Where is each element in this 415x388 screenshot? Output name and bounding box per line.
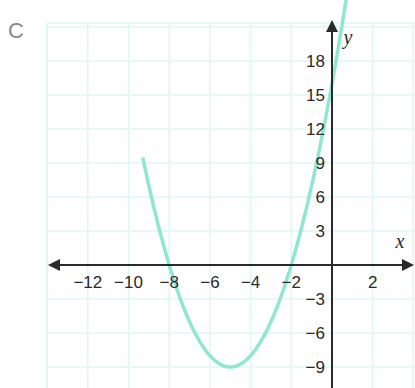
y-tick-label: −6 [306,324,325,343]
x-axis-label: x [395,230,405,252]
x-tick-label: −4 [241,273,260,292]
y-tick-label: 18 [306,52,325,71]
x-axis-arrow-right-icon [402,259,414,271]
y-tick-label: −9 [306,358,325,377]
x-tick-label: −6 [200,273,219,292]
x-tick-label: −10 [114,273,143,292]
y-tick-label: 9 [316,154,325,173]
x-axis-arrow-left-icon [48,259,60,271]
y-axis-arrow-up-icon [326,20,338,32]
x-tick-label: −8 [160,273,179,292]
y-tick-label: 15 [306,86,325,105]
y-tick-label: 3 [316,222,325,241]
x-tick-label: −2 [282,273,301,292]
parabola-chart: −12−10−8−6−4−22181512963−3−6−9xy [0,0,415,388]
x-tick-label: 2 [368,273,377,292]
y-tick-label: −3 [306,290,325,309]
y-axis-label: y [342,26,353,49]
y-tick-label: 12 [306,120,325,139]
x-tick-label: −12 [73,273,102,292]
y-tick-label: 6 [316,188,325,207]
